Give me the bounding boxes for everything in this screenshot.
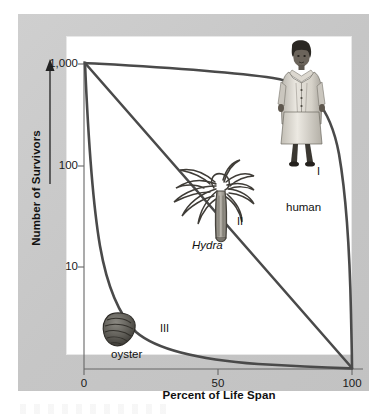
y-tick-labels: 1,000 100 10 (18, 14, 78, 419)
x-tick-label-50: 50 (200, 378, 236, 390)
curve-label-type-two: II (237, 216, 243, 227)
x-axis-title: Percent of Life Span (84, 389, 354, 401)
figure-panel: 1,000 100 10 0 50 100 Number of Survivor… (18, 14, 369, 391)
scan-artifact (20, 404, 170, 414)
specimen-label-human: human (286, 202, 321, 214)
curve-label-type-three: III (160, 323, 169, 334)
y-axis-title: Number of Survivors (30, 108, 42, 268)
specimen-label-oyster: oyster (111, 349, 142, 361)
x-tick-label-0: 0 (66, 378, 102, 390)
plot-area (66, 36, 352, 355)
y-tick-label-1000: 1,000 (22, 58, 78, 70)
x-tick-label-100: 100 (334, 378, 370, 390)
specimen-label-hydra: Hydra (192, 240, 223, 252)
curve-label-type-one: I (317, 166, 320, 177)
